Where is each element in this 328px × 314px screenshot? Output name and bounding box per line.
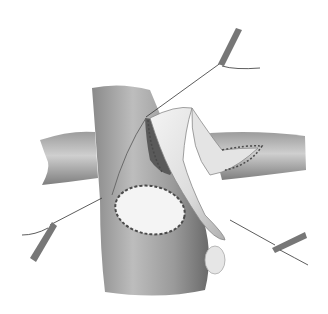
appendage — [205, 246, 225, 274]
illustration-canvas — [0, 0, 328, 314]
stay-suture-left — [50, 198, 102, 225]
clamp-left-icon — [22, 222, 57, 262]
clamp-top-icon — [218, 28, 260, 69]
left-branch-vessel — [40, 132, 98, 185]
stay-suture-right — [230, 220, 275, 245]
clamp-right-icon — [272, 232, 308, 265]
